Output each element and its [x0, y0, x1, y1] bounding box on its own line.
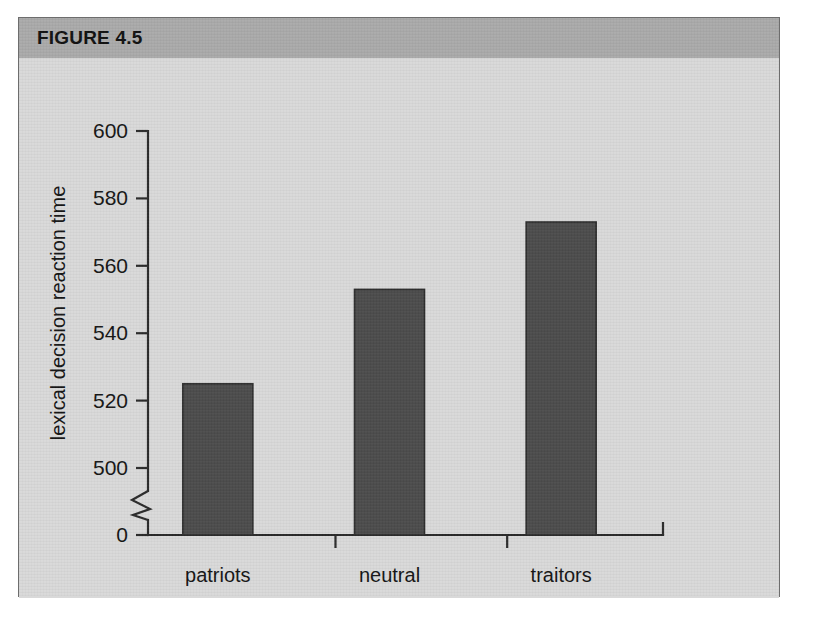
x-axis-category-label: patriots	[185, 564, 251, 586]
y-axis-tick-label: 600	[93, 119, 128, 142]
x-axis-category-label: neutral	[359, 564, 420, 586]
y-axis-tick-label: 0	[116, 523, 128, 546]
bar	[526, 222, 596, 535]
y-axis-tick-label: 560	[93, 254, 128, 277]
bar	[355, 289, 425, 535]
figure-frame: FIGURE 4.5 0500520540560580600patriotsne…	[18, 17, 780, 597]
y-axis-tick-label: 500	[93, 456, 128, 479]
figure-title: FIGURE 4.5	[37, 27, 142, 49]
x-axis-category-label: traitors	[531, 564, 592, 586]
figure-header-band: FIGURE 4.5	[19, 18, 779, 58]
bar	[183, 384, 253, 535]
y-axis-tick-label: 580	[93, 186, 128, 209]
y-axis-tick-label: 540	[93, 321, 128, 344]
chart-plot-area: 0500520540560580600patriotsneutraltraito…	[19, 58, 779, 598]
y-axis-break-symbol	[132, 491, 150, 520]
y-axis-tick-label: 520	[93, 389, 128, 412]
bar-chart: 0500520540560580600patriotsneutraltraito…	[19, 58, 779, 598]
y-axis-title: lexical decision reaction time	[47, 186, 69, 441]
